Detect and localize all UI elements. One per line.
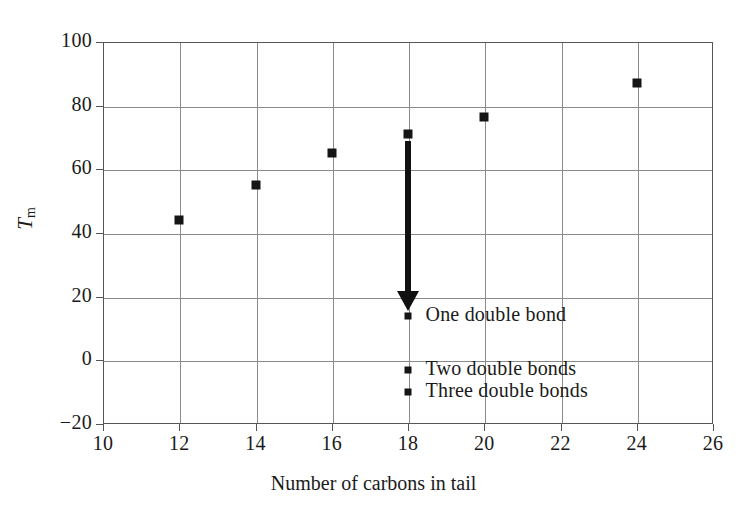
annotation-arrow-head xyxy=(397,291,419,311)
x-tick-label: 18 xyxy=(378,432,438,455)
x-tick-mark xyxy=(561,424,562,431)
y-tick-label: 60 xyxy=(22,156,92,179)
x-tick-label: 14 xyxy=(226,432,286,455)
x-tick-mark xyxy=(103,424,104,431)
y-tick-label: 20 xyxy=(22,284,92,307)
data-point-marker xyxy=(405,389,412,396)
y-tick-mark xyxy=(96,169,103,170)
y-tick-mark xyxy=(96,360,103,361)
annotation-label: One double bond xyxy=(426,303,567,326)
x-tick-label: 26 xyxy=(683,432,743,455)
x-tick-label: 12 xyxy=(149,432,209,455)
annotation-arrow-shaft xyxy=(405,141,411,296)
y-tick-label: 100 xyxy=(22,29,92,52)
data-point-marker xyxy=(405,366,412,373)
data-point-marker xyxy=(404,130,413,139)
y-tick-label: 80 xyxy=(22,93,92,116)
x-tick-mark xyxy=(637,424,638,431)
data-point-marker xyxy=(251,181,260,190)
gridline-vertical xyxy=(257,43,258,423)
y-tick-mark xyxy=(96,233,103,234)
y-tick-label: 0 xyxy=(22,347,92,370)
y-tick-labels: −20020406080100 xyxy=(8,0,92,529)
x-tick-mark xyxy=(484,424,485,431)
x-tick-mark xyxy=(256,424,257,431)
y-axis-title-sub: m xyxy=(23,207,38,218)
annotation-label: Three double bonds xyxy=(426,379,588,402)
data-point-marker xyxy=(175,216,184,225)
x-tick-mark xyxy=(332,424,333,431)
gridline-vertical xyxy=(180,43,181,423)
y-tick-mark xyxy=(96,106,103,107)
data-point-marker xyxy=(327,149,336,158)
data-point-marker xyxy=(405,312,412,319)
gridline-horizontal xyxy=(104,107,712,108)
data-point-marker xyxy=(480,112,489,121)
gridline-vertical xyxy=(333,43,334,423)
y-axis-title: Tm xyxy=(13,207,38,230)
x-tick-label: 22 xyxy=(531,432,591,455)
x-tick-label: 16 xyxy=(302,432,362,455)
annotation-label: Two double bonds xyxy=(426,357,577,380)
x-tick-mark xyxy=(408,424,409,431)
y-tick-mark xyxy=(96,424,103,425)
gridline-horizontal xyxy=(104,361,712,362)
y-axis-title-main: T xyxy=(13,218,37,230)
chart-figure: 101214161820222426 −20020406080100 One d… xyxy=(0,0,747,529)
x-tick-label: 20 xyxy=(454,432,514,455)
x-tick-mark xyxy=(713,424,714,431)
y-tick-mark xyxy=(96,297,103,298)
gridline-vertical xyxy=(638,43,639,423)
y-tick-label: −20 xyxy=(22,411,92,434)
x-axis-title: Number of carbons in tail xyxy=(0,472,747,495)
x-tick-mark xyxy=(179,424,180,431)
y-tick-mark xyxy=(96,42,103,43)
x-tick-label: 24 xyxy=(607,432,667,455)
data-point-marker xyxy=(632,79,641,88)
